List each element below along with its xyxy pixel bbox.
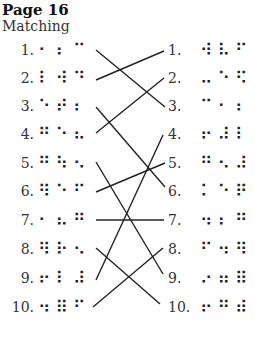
braille-word: ⠻⠑⠋ [38,181,90,201]
left-item-number: 2. [0,70,34,86]
right-item-10: 10. ⠖⠛⠾ [168,294,252,320]
match-line-3-6 [96,107,165,187]
braille-word: ⠔⠶⠿ [200,268,252,288]
match-line-6-5 [96,163,165,192]
left-item-1: 1. ⠂⠆⠉ [0,37,90,63]
right-item-number: 7. [168,212,196,228]
braille-word: ⠇⠺⠙ [38,68,90,88]
braille-word: ⠺⠧⠋ [200,40,252,60]
right-item-number: 5. [168,155,196,171]
left-item-number: 9. [0,270,34,286]
braille-word: ⠅⠑⠟ [200,181,252,201]
left-item-7: 7. ⠂⠦⠛ [0,207,90,233]
right-item-6: 6. ⠅⠑⠟ [168,178,252,204]
left-item-10: 10. ⠲⠿⠋ [0,294,90,320]
braille-word: ⠖⠛⠾ [200,297,252,317]
right-item-number: 8. [168,241,196,257]
left-item-9: 9. ⠖⠇⠼ [0,265,90,291]
braille-word: ⠂⠆⠉ [38,40,90,60]
braille-word: ⠑⠞⠆ [38,96,90,116]
braille-word: ⠂⠦⠛ [38,210,90,230]
right-item-number: 9. [168,270,196,286]
braille-word: ⠛⠳⠢ [38,153,90,173]
left-item-number: 1. [0,42,34,58]
braille-word: ⠋⠲⠻ [200,239,252,259]
left-item-number: 10. [0,299,34,315]
right-item-number: 4. [168,126,196,142]
braille-word: ⠻⠗⠢ [38,239,90,259]
braille-word: ⠤⠑⠫ [200,68,252,88]
braille-word: ⠲⠆⠛ [200,210,252,230]
braille-word: ⠉⠂⠆ [200,96,252,116]
left-item-number: 5. [0,155,34,171]
right-item-3: 3. ⠉⠂⠆ [168,93,252,119]
left-item-5: 5. ⠛⠳⠢ [0,150,90,176]
right-item-5: 5. ⠛⠢⠼ [168,150,252,176]
braille-word: ⠛⠑⠦ [38,124,90,144]
left-item-number: 4. [0,126,34,142]
left-item-3: 3. ⠑⠞⠆ [0,93,90,119]
braille-word: ⠖⠇⠼ [38,268,90,288]
left-item-number: 7. [0,212,34,228]
right-item-9: 9. ⠔⠶⠿ [168,265,252,291]
right-item-number: 6. [168,183,196,199]
left-item-2: 2. ⠇⠺⠙ [0,65,90,91]
right-item-number: 1. [168,42,196,58]
right-item-4: 4. ⠖⠼⠇ [168,121,252,147]
braille-word: ⠛⠢⠼ [200,153,252,173]
right-item-number: 2. [168,70,196,86]
left-item-number: 8. [0,241,34,257]
braille-word: ⠲⠿⠋ [38,297,90,317]
right-item-7: 7. ⠲⠆⠛ [168,207,252,233]
match-line-1-3 [96,50,165,107]
left-item-number: 6. [0,183,34,199]
left-item-number: 3. [0,98,34,114]
left-item-8: 8. ⠻⠗⠢ [0,236,90,262]
left-item-4: 4. ⠛⠑⠦ [0,121,90,147]
right-item-2: 2. ⠤⠑⠫ [168,65,252,91]
match-line-4-2 [96,78,164,133]
right-item-8: 8. ⠋⠲⠻ [168,236,252,262]
left-item-6: 6. ⠻⠑⠋ [0,178,90,204]
right-item-number: 3. [168,98,196,114]
braille-word: ⠖⠼⠇ [200,124,252,144]
match-line-2-1 [96,51,164,80]
right-item-1: 1. ⠺⠧⠋ [168,37,252,63]
right-item-number: 10. [168,299,196,315]
